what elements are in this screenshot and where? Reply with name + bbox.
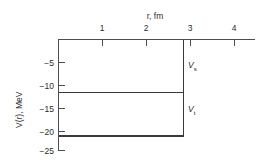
curve-label-vs-sub: s bbox=[194, 65, 197, 72]
y-tick-label-minus5: −5 bbox=[32, 58, 54, 67]
y-tick-label-minus25: −25 bbox=[32, 146, 54, 155]
y-tick-label-minus15: −15 bbox=[32, 104, 54, 113]
curve-label-vt-sub: t bbox=[194, 109, 196, 116]
y-axis-title: V(r), MeV bbox=[14, 92, 24, 128]
curve-vs bbox=[59, 40, 184, 93]
x-tick-label-2: 2 bbox=[144, 24, 149, 33]
x-axis-title: r, fm bbox=[147, 11, 164, 21]
y-axis-title-suffix: ), MeV bbox=[14, 92, 24, 117]
curve-label-vs: Vs bbox=[188, 60, 197, 72]
y-tick-label-minus20: −20 bbox=[32, 127, 54, 136]
curve-vt bbox=[59, 92, 184, 136]
curve-label-vt: Vt bbox=[188, 104, 195, 116]
x-tick-label-1: 1 bbox=[100, 24, 105, 33]
y-axis-title-prefix: V( bbox=[14, 120, 24, 129]
x-tick-label-4: 4 bbox=[232, 24, 237, 33]
x-tick-label-3: 3 bbox=[188, 24, 193, 33]
potential-well-chart: r, fm 1 2 3 4 −5 −10 −15 −20 −25 V(r), M… bbox=[0, 0, 261, 161]
y-tick-label-minus10: −10 bbox=[32, 81, 54, 90]
y-axis-title-variable: r bbox=[14, 117, 24, 120]
